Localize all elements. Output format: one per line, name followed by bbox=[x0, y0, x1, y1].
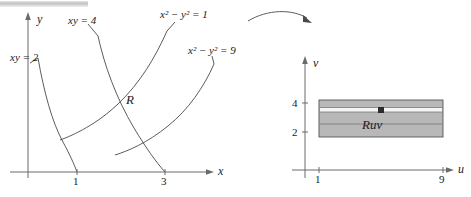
utick-label-1: 1 bbox=[315, 173, 321, 185]
u-axis bbox=[292, 167, 454, 173]
region-label-Ruv: Ruv bbox=[362, 117, 382, 133]
vtick-label-4: 4 bbox=[292, 97, 298, 109]
figure-canvas: y x 1 3 xy = 2 xy = 4 x² − y² = 1 x² − y… bbox=[0, 0, 471, 197]
utick-label-9: 9 bbox=[439, 173, 445, 185]
vtick-label-2: 2 bbox=[292, 126, 298, 138]
v-axis bbox=[302, 56, 308, 178]
sample-subrectangle-marker bbox=[378, 107, 384, 113]
u-axis-label: u bbox=[458, 162, 464, 177]
v-axis-label: v bbox=[313, 56, 318, 71]
right-panel-graphics bbox=[0, 0, 471, 197]
